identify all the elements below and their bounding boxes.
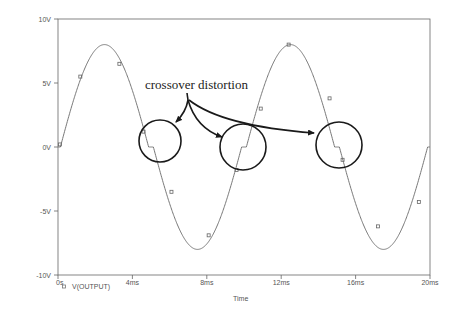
arrow-1 — [176, 100, 188, 122]
x-axis-ticks: 0s4ms8ms12ms16ms20ms — [56, 275, 439, 286]
y-tick-label: 5V — [42, 80, 51, 87]
annotation-text: crossover distortion — [145, 77, 248, 92]
chart: 10V5V0V-5V-10V 0s4ms8ms12ms16ms20ms cros… — [0, 0, 452, 313]
x-tick-label: 16ms — [347, 279, 365, 286]
x-tick-label: 8ms — [200, 279, 214, 286]
legend-label: V(OUTPUT) — [72, 283, 110, 291]
arrow-2 — [188, 100, 222, 137]
y-tick-label: -5V — [40, 208, 51, 215]
legend: V(OUTPUT) — [63, 283, 111, 291]
x-tick-label: 4ms — [126, 279, 140, 286]
distortion-circle — [139, 120, 181, 162]
y-tick-label: -10V — [36, 272, 51, 279]
square-marker-icon — [170, 190, 173, 193]
x-axis-title: Time — [233, 295, 248, 302]
square-marker-icon — [328, 97, 331, 100]
square-marker-icon — [118, 62, 121, 65]
trace-markers — [58, 43, 420, 237]
v-output-trace — [58, 45, 430, 250]
x-tick-label: 12ms — [273, 279, 291, 286]
square-marker-icon — [417, 201, 420, 204]
distortion-circle — [316, 122, 362, 168]
square-marker-icon — [207, 234, 210, 237]
y-tick-label: 10V — [39, 16, 52, 23]
y-axis-ticks: 10V5V0V-5V-10V — [36, 16, 58, 279]
y-tick-label: 0V — [42, 144, 51, 151]
x-tick-label: 20ms — [421, 279, 439, 286]
square-marker-icon — [259, 107, 262, 110]
square-marker-icon — [376, 225, 379, 228]
